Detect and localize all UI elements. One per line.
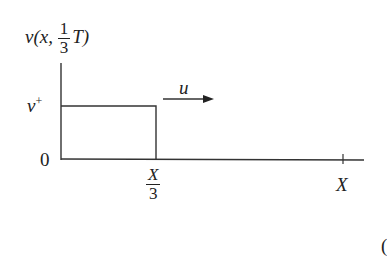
step-profile [61, 106, 156, 159]
tick-label-x-third: X3 [146, 166, 160, 204]
fraction-one-third: 13 [58, 20, 71, 58]
x-axis [61, 159, 364, 160]
tick-label-x: X [336, 175, 348, 194]
partial-glyph: ( [381, 236, 387, 255]
origin-label: 0 [40, 150, 50, 169]
arrow-right-icon [203, 95, 214, 103]
func-args: (x, [33, 26, 57, 47]
y-axis-label: v(x, 13T) [25, 20, 89, 58]
func-tail: T) [72, 26, 89, 47]
velocity-label: u [179, 78, 189, 97]
level-label: v+ [27, 95, 42, 115]
